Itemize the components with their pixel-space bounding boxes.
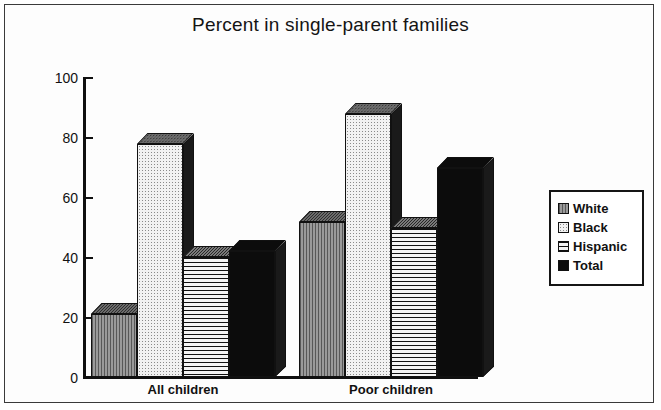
bar-white-poor-children bbox=[299, 211, 345, 377]
bar-front-face bbox=[91, 314, 137, 377]
bar-front-face bbox=[137, 144, 183, 377]
y-tick-60 bbox=[86, 197, 93, 199]
chart-legend: White Black Hispanic Total bbox=[549, 190, 644, 286]
bar-side-face bbox=[275, 241, 286, 377]
legend-swatch-white-icon bbox=[558, 203, 569, 214]
bar-black-poor-children bbox=[345, 103, 391, 377]
y-tick-80 bbox=[86, 137, 93, 139]
y-axis-line bbox=[83, 77, 86, 379]
bar-black-all-children bbox=[137, 133, 183, 377]
bar-side-face bbox=[483, 157, 494, 377]
bar-total-poor-children bbox=[437, 157, 483, 377]
y-tick-label-100: 100 bbox=[34, 70, 78, 86]
y-tick-40 bbox=[86, 257, 93, 259]
y-tick-label-80: 80 bbox=[34, 130, 78, 146]
legend-label-hispanic: Hispanic bbox=[573, 239, 627, 254]
legend-label-total: Total bbox=[573, 258, 603, 273]
bar-front-face bbox=[229, 251, 275, 377]
y-tick-label-0: 0 bbox=[34, 370, 78, 386]
bar-front-face bbox=[391, 228, 437, 378]
legend-swatch-total-icon bbox=[558, 260, 569, 271]
y-tick-label-60: 60 bbox=[34, 190, 78, 206]
bar-front-face bbox=[183, 257, 229, 377]
bar-front-face bbox=[345, 114, 391, 377]
x-category-label-all-children: All children bbox=[88, 382, 278, 397]
legend-item-total: Total bbox=[558, 258, 636, 273]
legend-item-black: Black bbox=[558, 220, 636, 235]
legend-swatch-hispanic-icon bbox=[558, 241, 569, 252]
y-tick-label-40: 40 bbox=[34, 250, 78, 266]
bar-front-face bbox=[437, 168, 483, 377]
bar-total-all-children bbox=[229, 240, 275, 377]
bar-hispanic-all-children bbox=[183, 246, 229, 377]
legend-item-hispanic: Hispanic bbox=[558, 239, 636, 254]
legend-label-white: White bbox=[573, 201, 608, 216]
bar-hispanic-poor-children bbox=[391, 217, 437, 378]
y-tick-label-20: 20 bbox=[34, 310, 78, 326]
legend-swatch-black-icon bbox=[558, 222, 569, 233]
legend-label-black: Black bbox=[573, 220, 608, 235]
x-category-label-poor-children: Poor children bbox=[296, 382, 486, 397]
bar-front-face bbox=[299, 222, 345, 377]
legend-item-white: White bbox=[558, 201, 636, 216]
bar-white-all-children bbox=[91, 303, 137, 377]
y-tick-100 bbox=[86, 77, 93, 79]
